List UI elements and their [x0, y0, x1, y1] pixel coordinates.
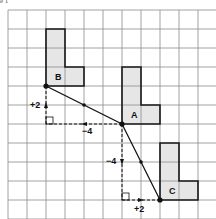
point-b — [43, 83, 48, 88]
component-label-down: −4 — [106, 156, 116, 166]
component-label-left: −4 — [82, 126, 92, 136]
shape-label-b: B — [55, 72, 62, 82]
component-label-up: +2 — [30, 100, 40, 110]
shape-label-c: C — [169, 186, 176, 196]
point-c — [157, 197, 162, 202]
shape-label-a: A — [131, 110, 138, 120]
figure-caption: e 1 — [0, 0, 8, 5]
grid-canvas: BAC+2−4−4+2 — [0, 0, 216, 219]
midpoint-dot-icon — [82, 103, 86, 107]
component-label-right: +2 — [134, 204, 144, 214]
right-angle-icon — [46, 117, 53, 124]
point-a — [119, 121, 124, 126]
right-angle-icon — [122, 193, 129, 200]
midpoint-dot-icon — [139, 160, 143, 164]
translation-diagram: e 1 BAC+2−4−4+2 — [0, 0, 216, 219]
